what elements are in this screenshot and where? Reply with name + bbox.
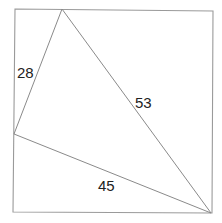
- triangle-side-left-bottom-right: [14, 134, 211, 213]
- side-length-label-45: 45: [98, 177, 115, 194]
- side-length-label-53: 53: [135, 94, 152, 111]
- triangle-side-top-bottom-right: [62, 9, 211, 213]
- triangle-in-square-diagram: 28 53 45: [0, 0, 222, 223]
- side-length-label-28: 28: [17, 64, 34, 81]
